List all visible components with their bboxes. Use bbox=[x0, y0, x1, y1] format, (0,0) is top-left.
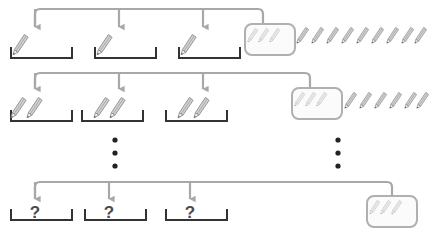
pencil-icon bbox=[417, 92, 429, 108]
question-mark-icon: ? bbox=[185, 203, 195, 222]
leaf-n-2[interactable]: ? bbox=[85, 203, 146, 222]
dot-icon bbox=[335, 137, 340, 142]
pool-box-outline bbox=[292, 88, 342, 119]
pencil-icon bbox=[312, 27, 324, 43]
ellipsis-left bbox=[112, 137, 117, 168]
pencil-icon bbox=[178, 97, 193, 117]
ellipsis-right bbox=[335, 137, 340, 168]
dot-icon bbox=[335, 150, 340, 155]
pencil-icon bbox=[194, 97, 209, 117]
bracket-container-icon bbox=[166, 209, 227, 220]
pencil-icon bbox=[297, 27, 309, 43]
dot-icon bbox=[335, 163, 340, 168]
pencil-icon bbox=[11, 97, 26, 117]
leaf-1-2[interactable] bbox=[95, 34, 156, 58]
leaf-1-3[interactable] bbox=[179, 34, 240, 58]
pool-box-n[interactable] bbox=[367, 196, 417, 227]
pencil-icon bbox=[94, 97, 109, 117]
pool-box-outline bbox=[245, 24, 295, 55]
pencil-icon bbox=[97, 34, 112, 54]
pencil-icon bbox=[375, 92, 387, 108]
pencil-distribution-diagram: ? ? ? bbox=[0, 0, 430, 234]
pencil-icon bbox=[110, 97, 125, 117]
remaining-pencils-1 bbox=[297, 27, 427, 43]
level-2-group bbox=[11, 73, 429, 121]
remaining-pencils-2 bbox=[345, 92, 429, 108]
pool-box-1[interactable] bbox=[245, 24, 295, 55]
leaf-n-1[interactable]: ? bbox=[11, 203, 72, 222]
dot-icon bbox=[112, 163, 117, 168]
pencil-icon bbox=[181, 34, 196, 54]
leaf-2-3[interactable] bbox=[166, 97, 227, 121]
level-n-group: ? ? ? bbox=[11, 182, 417, 227]
pencil-icon bbox=[357, 27, 369, 43]
leaf-2-1[interactable] bbox=[11, 97, 72, 121]
pencil-icon bbox=[402, 27, 414, 43]
pencil-icon bbox=[372, 27, 384, 43]
pencil-icon bbox=[360, 92, 372, 108]
dot-icon bbox=[112, 137, 117, 142]
bracket-container-icon bbox=[85, 209, 146, 220]
leaf-n-3[interactable]: ? bbox=[166, 203, 227, 222]
dot-icon bbox=[112, 150, 117, 155]
pencil-icon bbox=[13, 34, 28, 54]
leaf-2-2[interactable] bbox=[82, 97, 143, 121]
pencil-icon bbox=[415, 27, 427, 43]
pencil-icon bbox=[390, 92, 402, 108]
question-mark-icon: ? bbox=[30, 203, 40, 222]
pencil-icon bbox=[27, 97, 42, 117]
pencil-icon bbox=[387, 27, 399, 43]
connector-bus-level-1 bbox=[35, 9, 263, 26]
bracket-container-icon bbox=[11, 209, 72, 220]
pencil-icon bbox=[405, 92, 417, 108]
connector-bus-level-2 bbox=[35, 73, 310, 88]
diagram-canvas: ? ? ? bbox=[0, 0, 430, 234]
level-1-group bbox=[11, 9, 427, 58]
question-mark-icon: ? bbox=[104, 203, 114, 222]
leaf-1-1[interactable] bbox=[11, 34, 72, 58]
bracket-container-icon bbox=[11, 110, 72, 121]
pencil-icon bbox=[327, 27, 339, 43]
pencil-icon bbox=[345, 92, 357, 108]
pool-box-outline bbox=[367, 196, 417, 227]
pool-box-2[interactable] bbox=[292, 88, 342, 119]
connector-bus-level-n bbox=[35, 182, 392, 198]
pencil-icon bbox=[342, 27, 354, 43]
